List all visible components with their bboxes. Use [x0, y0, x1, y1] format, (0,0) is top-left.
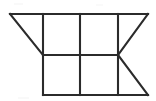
diagonal-right-lower	[118, 55, 148, 95]
figure-canvas	[0, 0, 156, 101]
diagonal-right-upper	[118, 14, 148, 55]
diagonal-left-wedge	[10, 14, 43, 55]
line-figure-svg	[0, 0, 156, 101]
segment-layer	[10, 14, 148, 95]
